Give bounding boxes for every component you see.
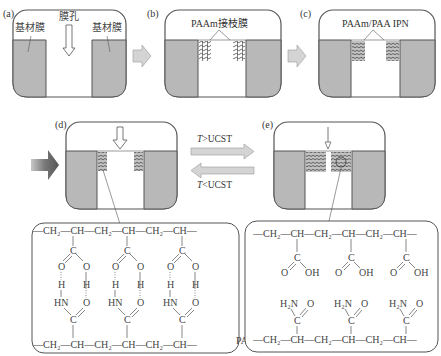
svg-text:O: O bbox=[192, 261, 199, 272]
svg-text:H: H bbox=[83, 279, 90, 290]
svg-text:C: C bbox=[294, 252, 301, 263]
svg-text:O: O bbox=[307, 298, 314, 309]
substrate-membrane-right bbox=[352, 151, 385, 209]
substrate-membrane-left bbox=[13, 40, 46, 97]
input-arrow-icon bbox=[31, 150, 59, 180]
svg-text:H: H bbox=[192, 279, 199, 290]
svg-text:O: O bbox=[361, 298, 368, 309]
svg-text:O: O bbox=[281, 267, 288, 278]
paa-backbone: —CH₂—CH—CH₂—CH—CH₂—CH— bbox=[32, 225, 198, 236]
svg-text:O: O bbox=[112, 261, 119, 272]
svg-text:HN: HN bbox=[163, 297, 177, 308]
svg-text:O: O bbox=[192, 297, 199, 308]
svg-text:H: H bbox=[112, 279, 119, 290]
svg-text:H: H bbox=[167, 279, 174, 290]
panel-c: (c) PAAm/PAA IPN bbox=[300, 8, 435, 97]
svg-text:C: C bbox=[124, 314, 131, 325]
svg-text:O: O bbox=[335, 267, 342, 278]
panel-b-label: (b) bbox=[147, 8, 159, 20]
paa-backbone: —CH₂—CH—CH₂—CH—CH₂—CH— bbox=[252, 228, 418, 239]
panel-b: (b) PAAm接枝膜 bbox=[147, 8, 281, 97]
panel-a: (a) 基材膜 基材膜 膜孔 bbox=[3, 8, 126, 97]
svg-text:H₂N: H₂N bbox=[334, 298, 352, 309]
svg-text:HN: HN bbox=[108, 297, 122, 308]
svg-text:OH: OH bbox=[305, 267, 319, 278]
substrate-membrane-right bbox=[144, 151, 177, 209]
svg-text:O: O bbox=[83, 297, 90, 308]
svg-text:O: O bbox=[58, 261, 65, 272]
svg-text:O: O bbox=[137, 297, 144, 308]
paam-backbone: —CH₂—CH—CH₂—CH—CH₂—CH— bbox=[32, 339, 198, 350]
panel-a-label: (a) bbox=[3, 8, 14, 20]
substrate-membrane-right bbox=[246, 40, 281, 97]
grafted-chains-right bbox=[233, 41, 245, 61]
panel-d-label: (d) bbox=[55, 119, 67, 131]
panel-c-title: PAAm/PAA IPN bbox=[342, 18, 409, 29]
panel-e-label: (e) bbox=[262, 119, 273, 131]
panel-d: (d) bbox=[55, 119, 177, 224]
structure-box-right bbox=[245, 221, 438, 352]
svg-text:C: C bbox=[70, 314, 77, 325]
svg-text:H: H bbox=[58, 279, 65, 290]
step-arrow-icon bbox=[288, 45, 306, 67]
collapsed-ipn-right bbox=[134, 152, 143, 171]
substrate-membrane-left bbox=[165, 40, 198, 97]
svg-text:OH: OH bbox=[359, 267, 373, 278]
cool-label: T<UCST bbox=[197, 180, 232, 190]
structure-separated: —CH₂—CH—CH₂—CH—CH₂—CH— —CH₂—CH—CH₂—CH—CH… bbox=[245, 221, 438, 352]
grafted-chains-left bbox=[199, 41, 211, 61]
panel-c-label: (c) bbox=[300, 8, 311, 20]
svg-text:C: C bbox=[403, 252, 410, 263]
panel-b-title: PAAm接枝膜 bbox=[191, 17, 248, 29]
substrate-membrane-right bbox=[92, 40, 126, 97]
structure-hbonded: —CH₂—CH—CH₂—CH—CH₂—CH— —CH₂—CH—CH₂—CH—CH… bbox=[32, 223, 267, 353]
substrate-label-left: 基材膜 bbox=[15, 21, 45, 33]
substrate-membrane-left bbox=[319, 40, 351, 97]
svg-text:H₂N: H₂N bbox=[389, 298, 407, 309]
ipn-chains-right bbox=[386, 41, 399, 61]
substrate-membrane-left bbox=[274, 151, 305, 209]
paam-backbone: —CH₂—CH—CH₂—CH—CH₂—CH— bbox=[252, 334, 418, 345]
substrate-label-right: 基材膜 bbox=[92, 21, 122, 33]
heating-arrow-icon bbox=[191, 144, 254, 159]
heat-label: T>UCST bbox=[197, 134, 232, 144]
ipn-chains-left bbox=[352, 41, 365, 61]
collapsed-ipn-left bbox=[98, 152, 107, 171]
svg-text:H: H bbox=[137, 279, 144, 290]
svg-text:OH: OH bbox=[414, 267, 428, 278]
svg-text:O: O bbox=[137, 261, 144, 272]
substrate-membrane-left bbox=[66, 151, 97, 209]
svg-text:O: O bbox=[83, 261, 90, 272]
pore-label: 膜孔 bbox=[59, 11, 79, 22]
diagram-canvas: (a) 基材膜 基材膜 膜孔 (b) PAAm接枝膜 (c) PAAm/PAA … bbox=[0, 0, 441, 356]
svg-text:O: O bbox=[390, 267, 397, 278]
svg-text:C: C bbox=[348, 315, 355, 326]
svg-text:C: C bbox=[294, 315, 301, 326]
svg-text:C: C bbox=[179, 314, 186, 325]
temperature-switch: T>UCST T<UCST bbox=[191, 134, 254, 190]
svg-text:HN: HN bbox=[54, 297, 68, 308]
step-arrow-icon bbox=[133, 45, 151, 67]
substrate-membrane-right bbox=[400, 40, 435, 97]
cooling-arrow-icon bbox=[191, 163, 254, 178]
svg-text:O: O bbox=[167, 261, 174, 272]
swollen-ipn-left bbox=[306, 152, 326, 172]
svg-text:H₂N: H₂N bbox=[280, 298, 298, 309]
svg-text:C: C bbox=[348, 252, 355, 263]
svg-text:C: C bbox=[403, 315, 410, 326]
panel-e: (e) bbox=[262, 119, 385, 221]
svg-text:O: O bbox=[416, 298, 423, 309]
